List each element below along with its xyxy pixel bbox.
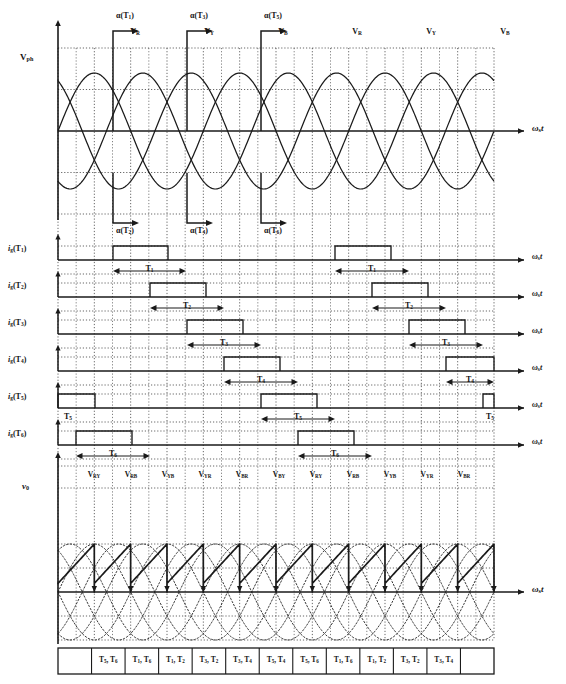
output-segment-label-10: VBR <box>458 471 471 479</box>
phase-label-5: VB <box>500 28 509 37</box>
omega-axis-label-sine: ωst <box>532 124 543 133</box>
vph-label: Vph <box>20 53 33 62</box>
output-segment-label-2: VYB <box>162 471 175 479</box>
omega-axis-label-gate-1: ωst <box>532 253 542 262</box>
firing-label-bottom-6: α(T6) <box>264 227 282 236</box>
gate-row-label-3: ig(T3) <box>8 319 26 328</box>
firing-arrow-bottom-6 <box>261 173 287 226</box>
firing-label-bottom-2: α(T2) <box>116 227 134 236</box>
conduction-cell-8: T1, T2 <box>367 656 386 664</box>
duration-label-4-1: T4 <box>466 376 474 385</box>
duration-label-6-1: T6 <box>331 450 339 459</box>
gate-yaxis-arrow <box>55 308 60 313</box>
conduction-cell-6: T5, T6 <box>300 656 319 664</box>
drop-arrow <box>346 586 351 592</box>
gate-row-label-2: ig(T2) <box>8 282 26 291</box>
output-segment-label-7: VRB <box>347 471 360 479</box>
output-segment-label-4: VBR <box>236 471 249 479</box>
vo-label: v0 <box>22 482 29 491</box>
output-segment-label-5: VBY <box>273 471 286 479</box>
omega-axis-label-gate-4: ωst <box>532 364 542 373</box>
duration-label-2-1: T2 <box>405 302 413 311</box>
output-axis-arrow <box>518 589 524 595</box>
duration-label-6-0: T6 <box>109 450 117 459</box>
phase-label-4: VY <box>426 28 436 37</box>
gate-row-label-6: ig(T6) <box>8 430 26 439</box>
phase-label-0: VR <box>130 28 140 37</box>
output-segment-label-3: VYR <box>199 471 212 479</box>
duration-label-2-0: T2 <box>183 302 191 311</box>
output-segment-label-8: VYB <box>384 471 397 479</box>
drop-arrow <box>491 586 496 592</box>
gate-pulse-row-2 <box>150 283 428 297</box>
duration-label-T5-right: T5 <box>486 413 494 422</box>
conduction-cell-2: T1, T2 <box>166 656 185 664</box>
waveform-canvas <box>0 0 566 684</box>
omega-axis-label-gate-3: ωst <box>532 327 542 336</box>
gate-axis-arrow <box>518 368 524 374</box>
drop-arrow <box>92 586 97 592</box>
firing-label-top-3: α(T3) <box>190 12 208 21</box>
gate-yaxis-arrow <box>55 271 60 276</box>
axis-arrow-head <box>518 128 524 134</box>
phase-label-2: VB <box>278 28 287 37</box>
conduction-cell-10: T3, T4 <box>434 656 453 664</box>
omega-axis-label-gate-6: ωst <box>532 438 542 447</box>
gate-axis-arrow <box>518 257 524 263</box>
firing-arrow-top-1 <box>113 28 139 131</box>
phase-label-1: VY <box>204 28 214 37</box>
output-segment-label-0: VRY <box>88 471 101 479</box>
drop-arrow <box>382 586 387 592</box>
conduction-cell-1: T1, T6 <box>132 656 151 664</box>
firing-arrow-bottom-4 <box>187 173 213 226</box>
gate-yaxis-arrow <box>55 382 60 387</box>
conduction-cell-0: T5, T6 <box>99 656 118 664</box>
gate-pulse-row-3 <box>187 320 465 334</box>
drop-arrow <box>128 586 133 592</box>
output-segment-label-9: VYR <box>421 471 434 479</box>
conduction-cell-9: T3, T2 <box>401 656 420 664</box>
conduction-cell-3: T3, T2 <box>200 656 219 664</box>
omega-axis-label-gate-5: ωst <box>532 401 542 410</box>
duration-label-1-1: T1 <box>368 265 376 274</box>
conduction-cell-4: T3, T4 <box>233 656 252 664</box>
duration-label-1-0: T1 <box>145 265 153 274</box>
conduction-cell-5: T5, T4 <box>267 656 286 664</box>
conduction-cell-7: T1, T6 <box>334 656 353 664</box>
drop-arrow <box>164 586 169 592</box>
vph-arrow-head <box>55 20 61 26</box>
gate-axis-arrow <box>518 405 524 411</box>
waveform-figure: Vphα(T1)α(T3)α(T5)α(T2)α(T4)α(T6)VRVYVBV… <box>0 0 566 684</box>
firing-label-bottom-4: α(T4) <box>190 227 208 236</box>
gate-axis-arrow <box>518 331 524 337</box>
duration-label-3-1: T3 <box>442 339 450 348</box>
duration-label-3-0: T3 <box>220 339 228 348</box>
duration-label-T5-left: T5 <box>64 413 72 422</box>
gate-pulse-row-4 <box>224 357 494 371</box>
firing-arrow-top-5 <box>261 28 287 131</box>
gate-axis-arrow <box>518 294 524 300</box>
omega-axis-label-output: ωst <box>532 585 543 594</box>
gate-yaxis-arrow <box>55 234 60 239</box>
omega-axis-label-gate-2: ωst <box>532 290 542 299</box>
gate-row-label-4: ig(T4) <box>8 356 26 365</box>
gate-pulse-row-1 <box>113 246 391 260</box>
firing-label-top-1: α(T1) <box>116 12 134 21</box>
output-segment-label-1: VRB <box>125 471 138 479</box>
gate-row-label-5: ig(T5) <box>8 393 26 402</box>
gate-yaxis-arrow <box>55 345 60 350</box>
drop-arrow <box>455 586 460 592</box>
firing-arrow-bottom-2 <box>113 173 139 226</box>
firing-label-top-5: α(T5) <box>264 12 282 21</box>
vo-arrow-head <box>55 452 61 458</box>
duration-label-5-0: T5 <box>294 413 302 422</box>
gate-yaxis-arrow <box>55 419 60 424</box>
drop-arrow <box>310 586 315 592</box>
drop-arrow <box>237 586 242 592</box>
gate-axis-arrow <box>518 442 524 448</box>
phase-label-3: VR <box>352 28 362 37</box>
output-segment-label-6: VRY <box>310 471 323 479</box>
duration-label-4-0: T4 <box>257 376 265 385</box>
gate-row-label-1: ig(T1) <box>8 245 26 254</box>
